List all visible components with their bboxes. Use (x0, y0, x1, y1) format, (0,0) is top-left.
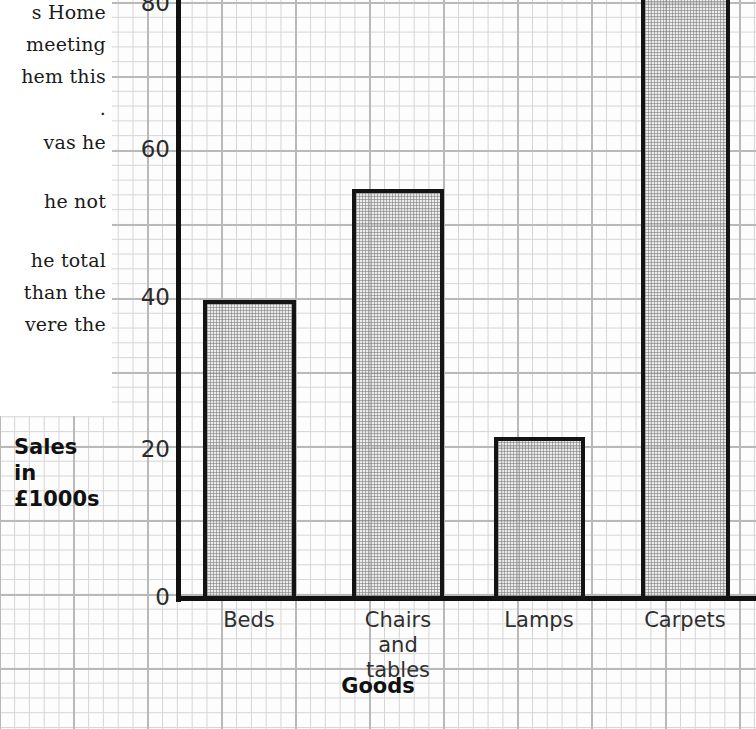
x-label-chairs-and-tables: Chairs and tables (343, 608, 453, 683)
x-label-carpets: Carpets (635, 608, 735, 633)
x-label-lamps: Lamps (489, 608, 589, 633)
bar-chairs-and-tables (352, 189, 444, 600)
bar-carpets (641, 0, 730, 600)
bar-lamps (494, 437, 585, 600)
y-axis-title-line1: Sales (14, 434, 100, 460)
x-label-line1: Lamps (489, 608, 589, 633)
x-label-line1: Chairs (343, 608, 453, 633)
bar-beds (203, 300, 296, 600)
y-axis-line (176, 0, 181, 602)
x-label-beds: Beds (199, 608, 299, 633)
y-tick-label-0: 0 (128, 584, 170, 610)
y-tick-label-40: 40 (128, 284, 170, 310)
x-label-line1: Beds (199, 608, 299, 633)
x-axis-title: Goods (0, 674, 756, 698)
y-axis-title-line3: £1000s (14, 486, 100, 512)
y-tick-label-20: 20 (128, 436, 170, 462)
y-tick-label-60: 60 (128, 136, 170, 162)
y-tick-label-80: 80 (128, 0, 170, 16)
x-label-line1: Carpets (635, 608, 735, 633)
y-axis-title-line2: in (14, 460, 100, 486)
bar-chart: 80 60 40 20 0 Beds Chairs and tables Lam… (0, 0, 756, 729)
y-axis-title: Sales in £1000s (14, 434, 100, 512)
